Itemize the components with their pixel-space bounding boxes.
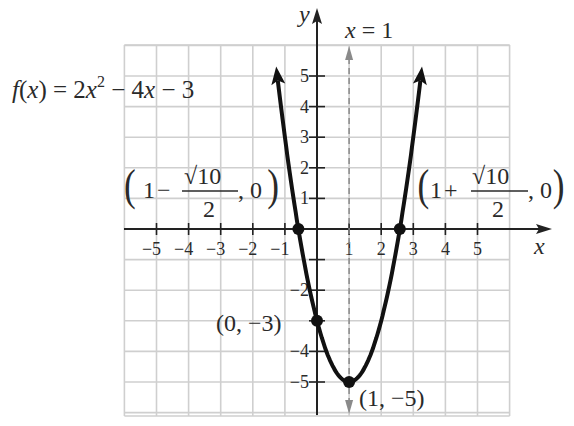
y-axis-label: y — [297, 1, 310, 27]
left-intercept-label: ( 1 − √10 2 , 0 ) — [124, 160, 279, 222]
x-tick-label: −3 — [206, 239, 225, 259]
y-tick-label: 5 — [300, 66, 309, 86]
y-tick-label: 2 — [300, 158, 309, 178]
x-tick-label: 4 — [441, 239, 450, 259]
x-tick-label: −4 — [174, 239, 193, 259]
svg-text:−: − — [157, 177, 171, 203]
svg-text:1: 1 — [430, 177, 442, 203]
svg-text:1: 1 — [143, 177, 155, 203]
y-intercept-label: (0, −3) — [216, 310, 282, 336]
y-intercept-dot — [311, 315, 323, 327]
parabola-chart: −5−4−3−2−11234554321−2−4−5 y x x = 1 f(x… — [0, 0, 574, 426]
symmetry-arrow-up-icon — [345, 46, 353, 60]
x-tick-label: 3 — [409, 239, 418, 259]
x-tick-label: −2 — [238, 239, 257, 259]
svg-text:, 0: , 0 — [528, 177, 552, 203]
svg-text:2: 2 — [492, 196, 504, 222]
y-tick-label: 1 — [300, 188, 309, 208]
svg-text:(: ( — [418, 160, 430, 210]
svg-text:√10: √10 — [184, 163, 221, 189]
y-tick-label: −5 — [290, 372, 309, 392]
y-tick-label: 3 — [300, 127, 309, 147]
svg-text:): ) — [553, 160, 565, 210]
x-tick-label: −1 — [270, 239, 289, 259]
right-intercept-label: ( 1 + √10 2 , 0 ) — [418, 160, 565, 222]
svg-text:, 0: , 0 — [238, 177, 262, 203]
x-axis-label: x — [533, 233, 545, 259]
y-tick-label: 4 — [300, 97, 309, 117]
x-tick-label: 2 — [377, 239, 386, 259]
svg-text:2: 2 — [203, 196, 215, 222]
y-tick-label: −4 — [290, 341, 309, 361]
x-tick-label: −5 — [142, 239, 161, 259]
svg-text:√10: √10 — [472, 163, 509, 189]
x-intercept-right-dot — [394, 223, 406, 235]
svg-text:(: ( — [124, 160, 136, 210]
svg-text:): ) — [267, 160, 279, 210]
svg-text:+: + — [444, 177, 458, 203]
symmetry-label: x = 1 — [344, 17, 393, 43]
vertex-dot — [343, 376, 355, 388]
y-tick-label: −2 — [290, 280, 309, 300]
x-tick-label: 5 — [473, 239, 482, 259]
vertex-label: (1, −5) — [359, 385, 425, 411]
function-label: f(x) = 2x2 − 4x − 3 — [12, 73, 194, 104]
x-intercept-left-dot — [292, 223, 304, 235]
